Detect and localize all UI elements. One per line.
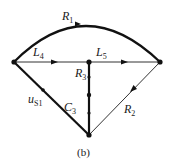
circuit-diagram: R1 L4 L5 R3 C3 uS1 R2 (b)	[0, 0, 171, 165]
label-c3: C3	[64, 100, 76, 116]
node-center	[86, 59, 91, 64]
node-bottom	[86, 132, 91, 137]
node-left	[11, 59, 16, 64]
label-l4: L4	[32, 45, 44, 61]
label-us1: uS1	[28, 92, 42, 108]
node-right	[157, 59, 162, 64]
branch-r2	[89, 62, 160, 135]
label-r1: R1	[61, 9, 73, 25]
label-l5: L5	[95, 45, 107, 61]
label-r2: R2	[123, 102, 135, 118]
arrow-l5	[121, 60, 128, 65]
label-r3: R3	[74, 66, 86, 82]
figure-caption: (b)	[77, 146, 90, 159]
arrow-l4	[51, 60, 58, 65]
